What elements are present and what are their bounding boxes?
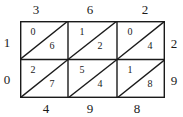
- cell-r2c3-tens: 1: [125, 65, 135, 75]
- multiplier-digit-2: 9: [166, 74, 182, 87]
- cell-r2c3-ones: 8: [145, 79, 155, 89]
- cell-r1c2-tens: 1: [77, 27, 87, 37]
- multiplicand-digit-1: 3: [28, 3, 44, 16]
- cell-r1c1-tens: 0: [28, 27, 38, 37]
- multiplicand-digit-2: 6: [82, 3, 98, 16]
- cell-r2c1-ones: 7: [47, 79, 57, 89]
- cell-r1c3-ones: 4: [145, 41, 155, 51]
- cell-r1c2-ones: 2: [95, 41, 105, 51]
- left-result-digit-1: 1: [0, 36, 15, 49]
- multiplier-digit-1: 2: [166, 37, 182, 50]
- cell-r2c2-ones: 4: [95, 79, 105, 89]
- bottom-result-digit-1: 4: [38, 102, 54, 115]
- lattice-grid: 0 6 1 2 0 4 2 7 5 4 1 8: [20, 21, 165, 98]
- cell-r1c3-tens: 0: [125, 27, 135, 37]
- bottom-result-digit-2: 9: [82, 102, 98, 115]
- cell-r1c1-ones: 6: [47, 41, 57, 51]
- bottom-result-digit-3: 8: [129, 102, 145, 115]
- lattice-lines: [20, 21, 165, 98]
- multiplicand-digit-3: 2: [137, 3, 153, 16]
- cell-r2c1-tens: 2: [28, 65, 38, 75]
- cell-r2c2-tens: 5: [77, 65, 87, 75]
- left-result-digit-2: 0: [0, 73, 15, 86]
